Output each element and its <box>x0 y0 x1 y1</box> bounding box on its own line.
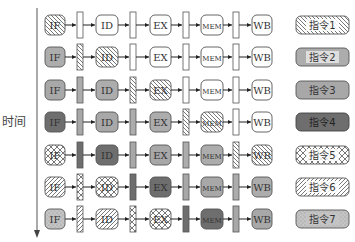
pipeline-register <box>183 12 189 38</box>
pipeline-register <box>233 77 239 103</box>
stage-label: MEM <box>202 88 221 96</box>
stage-label: EX <box>153 52 168 63</box>
arrow-right-icon <box>247 55 251 59</box>
stage-label: EX <box>153 182 168 193</box>
pipeline-register <box>77 142 83 168</box>
pipeline-register <box>77 44 83 70</box>
pipeline-register <box>130 174 136 200</box>
stage-label: WB <box>253 214 271 225</box>
stage-label: IF <box>50 214 61 225</box>
legend-item-1: 指令1 <box>296 16 349 34</box>
arrow-right-icon <box>145 217 149 221</box>
arrow-right-icon <box>228 23 232 27</box>
legend-label: 指令4 <box>309 116 335 128</box>
stage-label: ID <box>101 52 113 63</box>
pipeline-diagram: IFIDEXMEMWBIFIDEXMEMWBIFIDEXMEMWBIFIDEXM… <box>0 0 355 242</box>
stage-label: WB <box>253 52 271 63</box>
arrow-right-icon <box>196 88 200 92</box>
stage-label: MEM <box>202 185 221 193</box>
time-axis <box>34 8 40 238</box>
arrow-right-icon <box>228 120 232 124</box>
pipeline-register <box>130 206 136 232</box>
legend-label: 指令3 <box>309 84 335 96</box>
arrow-right-icon <box>72 185 76 189</box>
stage-label: WB <box>253 150 271 161</box>
stage-label: MEM <box>202 217 221 225</box>
arrow-right-icon <box>72 120 76 124</box>
pipeline-register <box>183 77 189 103</box>
arrow-right-icon <box>247 88 251 92</box>
arrow-right-icon <box>228 217 232 221</box>
stage-label: WB <box>253 20 271 31</box>
arrow-right-icon <box>247 185 251 189</box>
stage-label: MEM <box>202 23 221 31</box>
pipeline-register <box>77 109 83 135</box>
arrow-right-icon <box>196 120 200 124</box>
arrow-right-icon <box>91 185 95 189</box>
pipeline-register <box>233 206 239 232</box>
arrow-right-icon <box>91 120 95 124</box>
arrow-right-icon <box>145 120 149 124</box>
pipeline-row-3: IFIDEXMEMWB <box>45 77 272 103</box>
stage-label: IF <box>50 85 61 96</box>
stage-label: ID <box>101 85 113 96</box>
legend-item-3: 指令3 <box>296 81 349 99</box>
arrow-right-icon <box>91 23 95 27</box>
stage-label: IF <box>50 150 61 161</box>
arrow-right-icon <box>247 120 251 124</box>
stage-label: EX <box>153 20 168 31</box>
pipeline-register <box>130 12 136 38</box>
stage-label: IF <box>50 52 61 63</box>
stage-label: EX <box>153 150 168 161</box>
stage-label: EX <box>153 85 168 96</box>
arrow-right-icon <box>247 23 251 27</box>
arrow-right-icon <box>72 217 76 221</box>
stage-label: MEM <box>202 55 221 63</box>
arrow-right-icon <box>91 55 95 59</box>
pipeline-register <box>130 77 136 103</box>
arrow-right-icon <box>91 153 95 157</box>
stage-label: ID <box>101 117 113 128</box>
pipeline-register <box>77 206 83 232</box>
arrow-right-icon <box>196 23 200 27</box>
arrow-right-icon <box>125 88 129 92</box>
arrow-right-icon <box>196 55 200 59</box>
arrow-right-icon <box>72 88 76 92</box>
pipeline-register <box>77 77 83 103</box>
arrow-right-icon <box>72 153 76 157</box>
stage-label: ID <box>101 214 113 225</box>
legend-label: 指令2 <box>309 51 335 63</box>
arrow-right-icon <box>196 153 200 157</box>
pipeline-row-5: IFIDEXMEMWB <box>45 142 272 168</box>
stage-label: MEM <box>202 153 221 161</box>
stage-label: ID <box>101 20 113 31</box>
pipeline-register <box>233 12 239 38</box>
stage-label: ID <box>101 150 113 161</box>
arrow-right-icon <box>228 55 232 59</box>
arrow-right-icon <box>196 217 200 221</box>
arrow-right-icon <box>91 88 95 92</box>
pipeline-register <box>233 109 239 135</box>
pipeline-register <box>183 109 189 135</box>
legend: 指令1指令2指令3指令4指令5指令6指令7 <box>296 16 349 228</box>
arrow-right-icon <box>228 88 232 92</box>
legend-label: 指令7 <box>309 213 335 225</box>
arrow-right-icon <box>125 55 129 59</box>
stage-label: WB <box>253 117 271 128</box>
arrow-right-icon <box>125 217 129 221</box>
arrow-right-icon <box>247 217 251 221</box>
pipeline-register <box>77 174 83 200</box>
legend-item-4: 指令4 <box>296 113 349 131</box>
stage-label: ID <box>101 182 113 193</box>
legend-item-5: 指令5 <box>296 146 349 164</box>
pipeline-register <box>130 44 136 70</box>
stage-label: WB <box>253 182 271 193</box>
arrow-right-icon <box>178 153 182 157</box>
pipeline-row-6: IFIDEXMEMWB <box>45 174 272 200</box>
arrow-right-icon <box>178 120 182 124</box>
arrow-right-icon <box>125 23 129 27</box>
arrow-right-icon <box>178 88 182 92</box>
arrow-right-icon <box>145 153 149 157</box>
stage-label: IF <box>50 20 61 31</box>
pipeline-register <box>183 44 189 70</box>
